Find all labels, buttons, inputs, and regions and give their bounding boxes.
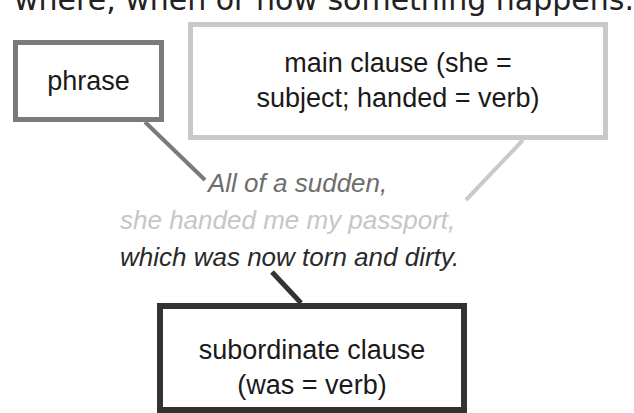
phrase-box: phrase (13, 40, 164, 122)
sentence-phrase: All of a sudden, (208, 168, 387, 199)
main-clause-box: main clause (she = subject; handed = ver… (188, 22, 608, 140)
phrase-label: phrase (47, 64, 130, 99)
subordinate-clause-line2: (was = verb) (199, 368, 426, 403)
sentence-main-clause: she handed me my passport, (120, 205, 455, 236)
main-clause-connector (466, 140, 523, 200)
main-clause-line1: main clause (she = (257, 46, 540, 81)
subordinate-clause-line1: subordinate clause (199, 333, 426, 368)
subordinate-clause-box: subordinate clause (was = verb) (157, 303, 467, 413)
sentence-subordinate-clause: which was now torn and dirty. (120, 242, 459, 273)
main-clause-line2: subject; handed = verb) (257, 81, 540, 116)
subordinate-connector (272, 272, 301, 303)
